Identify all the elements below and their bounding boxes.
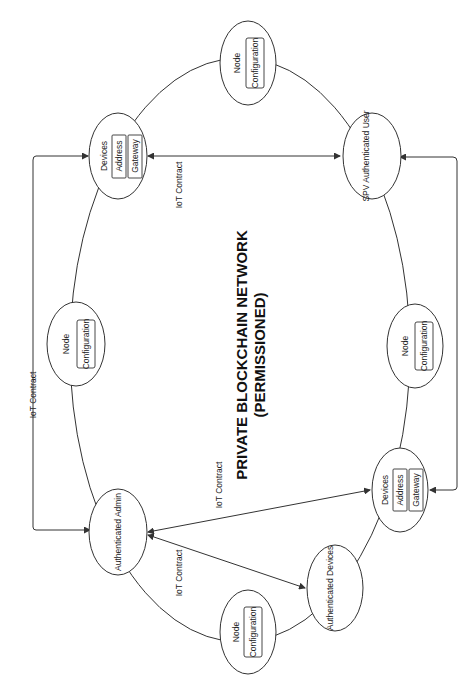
- node-devices-bottom: Devices Address Gateway: [372, 448, 428, 532]
- node-right: Node Configuration: [387, 304, 443, 388]
- svg-text:Address: Address: [114, 140, 124, 171]
- svg-text:Node: Node: [231, 622, 241, 643]
- svg-text:Configuration: Configuration: [81, 318, 91, 369]
- svg-text:Authenticated Devices: Authenticated Devices: [325, 546, 335, 631]
- svg-text:Node: Node: [61, 334, 71, 355]
- svg-text:Authenticated Admin: Authenticated Admin: [113, 493, 123, 571]
- edge-label: IoT Contract: [28, 371, 38, 418]
- svg-text:Devices: Devices: [380, 475, 390, 505]
- svg-text:Configuration: Configuration: [248, 606, 258, 657]
- edge-label: IoT Contract: [174, 549, 184, 596]
- edge-admin-devices-bottom: [148, 490, 370, 532]
- node-left: Node Configuration: [47, 302, 105, 386]
- svg-text:Devices: Devices: [99, 141, 109, 171]
- svg-text:Gateway: Gateway: [411, 472, 421, 506]
- edge-admin-auth-devices: [148, 535, 305, 588]
- edge-label: IoT Contract: [174, 161, 184, 208]
- node-spv-user: SPV Authenticated User: [343, 110, 401, 201]
- svg-text:Node: Node: [400, 336, 410, 357]
- blockchain-network-diagram: IoT Contract IoT Contract IoT Contract I…: [0, 0, 474, 687]
- diagram-title: PRIVATE BLOCKCHAIN NETWORK: [233, 230, 250, 480]
- svg-text:Configuration: Configuration: [250, 37, 260, 88]
- node-authenticated-admin: Authenticated Admin: [89, 489, 147, 575]
- node-top: Node Configuration: [220, 21, 276, 105]
- node-bottom: Node Configuration: [220, 590, 276, 674]
- svg-text:SPV Authenticated User: SPV Authenticated User: [361, 110, 371, 201]
- edge-label: IoT Contract: [214, 461, 224, 508]
- node-devices-top: Devices Address Gateway: [89, 113, 147, 199]
- svg-text:Node: Node: [232, 53, 242, 74]
- diagram-subtitle: (PERMISSIONED): [251, 292, 268, 417]
- svg-text:Address: Address: [395, 474, 405, 505]
- svg-text:Configuration: Configuration: [419, 320, 429, 371]
- svg-text:Gateway: Gateway: [130, 138, 140, 172]
- node-authenticated-devices: Authenticated Devices: [307, 545, 363, 631]
